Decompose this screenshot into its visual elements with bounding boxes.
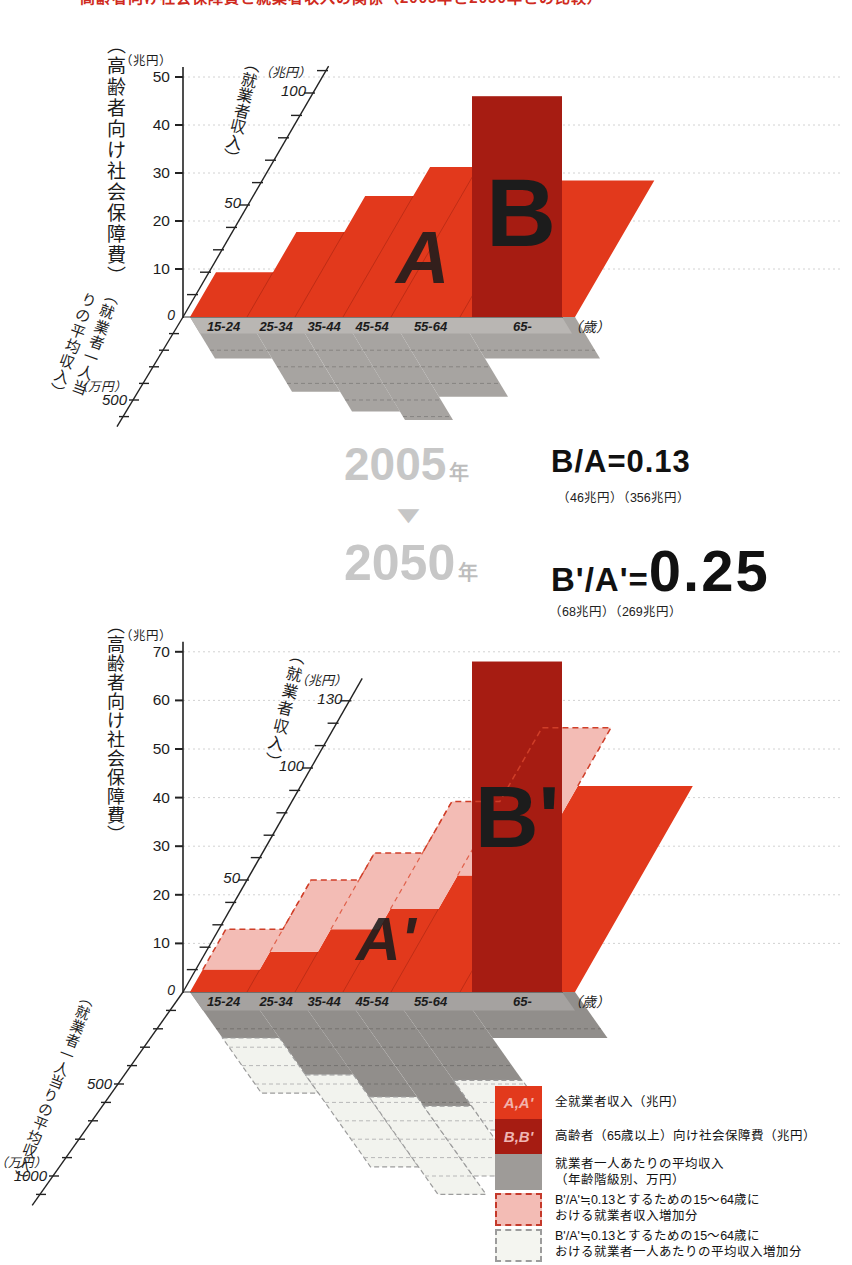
legend-swatch-pink-dashed xyxy=(495,1193,542,1226)
svg-text:130: 130 xyxy=(317,690,343,707)
left-axis: 10203040506070（兆円）0 xyxy=(120,629,183,998)
svg-text:保: 保 xyxy=(107,768,125,788)
svg-text:費: 費 xyxy=(107,245,126,266)
down-arrow-icon: ▼ xyxy=(390,503,427,527)
legend-item-social-security: B,B' 高齢者（65歳以上）向け社会保障費（兆円） xyxy=(495,1119,852,1154)
svg-text:25-34: 25-34 xyxy=(258,319,293,334)
ratio-2050-lhs: B'/A'= xyxy=(551,561,649,598)
svg-text:45-54: 45-54 xyxy=(354,994,389,1009)
legend-item-avg-income-increase: B'/A'≒0.13とするための15～64歳に おける就業者一人あたりの平均収入… xyxy=(495,1226,852,1262)
svg-text:向: 向 xyxy=(107,119,126,140)
year-2005-number: 2005 xyxy=(344,438,446,490)
svg-text:0: 0 xyxy=(167,982,175,998)
svg-text:25-34: 25-34 xyxy=(258,994,293,1009)
legend-label-line1: B'/A'≒0.13とするための15～64歳に xyxy=(555,1228,802,1244)
svg-text:40: 40 xyxy=(153,789,171,806)
svg-text:︵: ︵ xyxy=(107,620,125,636)
year-suffix: 年 xyxy=(458,562,478,584)
svg-text:（兆円）: （兆円） xyxy=(295,673,347,688)
income-axis-title: ︵就業者収入︶ xyxy=(262,646,308,771)
svg-text:会: 会 xyxy=(107,749,125,769)
ratio-2050-value: 0.25 xyxy=(649,538,770,603)
svg-text:（歳）: （歳） xyxy=(568,994,610,1010)
year-suffix: 年 xyxy=(449,462,469,484)
svg-text:50: 50 xyxy=(224,194,241,211)
svg-text:65-: 65- xyxy=(513,319,532,334)
surface-letter: A xyxy=(394,216,449,299)
svg-text:齢: 齢 xyxy=(107,77,126,98)
svg-text:高: 高 xyxy=(107,635,125,655)
legend-label-line1: B'/A'≒0.13とするための15～64歳に xyxy=(555,1192,760,1208)
svg-text:け: け xyxy=(107,140,126,161)
svg-text:者: 者 xyxy=(107,98,126,119)
legend-swatch-gray xyxy=(495,1154,542,1190)
ratio-2050-values: （68兆円）（269兆円） xyxy=(549,601,682,620)
ratio-2005: B/A=0.13 xyxy=(551,444,691,480)
svg-text:100: 100 xyxy=(281,82,307,99)
svg-text:30: 30 xyxy=(153,164,171,181)
legend-label-line2: おける就業者収入増加分 xyxy=(555,1208,760,1224)
svg-text:︶: ︶ xyxy=(46,380,66,401)
svg-text:齢: 齢 xyxy=(107,654,125,674)
chart-2005: 15-2425-3435-4445-5455-6465-（歳）AB1020304… xyxy=(0,0,852,470)
svg-text:者: 者 xyxy=(107,673,125,693)
svg-text:社: 社 xyxy=(107,730,125,750)
svg-text:10: 10 xyxy=(153,934,171,951)
svg-text:45-54: 45-54 xyxy=(354,319,389,334)
svg-text:0: 0 xyxy=(167,307,175,323)
svg-text:15-24: 15-24 xyxy=(207,319,241,334)
svg-text:70: 70 xyxy=(153,643,171,660)
surface-letter: B' xyxy=(475,767,559,866)
svg-text:（兆円）: （兆円） xyxy=(120,629,172,643)
legend: A,A' 全就業者収入（兆円） B,B' 高齢者（65歳以上）向け社会保障費（兆… xyxy=(495,1086,852,1262)
legend-swatch-red: A,A' xyxy=(495,1086,542,1119)
legend-item-worker-income: A,A' 全就業者収入（兆円） xyxy=(495,1086,852,1119)
avg-income-axis-title: ︵就業者一人当りの平均収入︶ xyxy=(9,989,98,1189)
legend-item-avg-income: 就業者一人あたりの平均収入 （年齢階級別、万円） xyxy=(495,1154,852,1190)
svg-text:35-44: 35-44 xyxy=(307,319,341,334)
svg-text:55-64: 55-64 xyxy=(414,319,448,334)
svg-text:30: 30 xyxy=(153,837,171,854)
legend-label-line2: （年齢階級別、万円） xyxy=(555,1172,724,1188)
left-axis-title: ︵高齢者向け社会保障費︶ xyxy=(107,620,125,845)
svg-text:障: 障 xyxy=(107,224,126,245)
year-2005-label: 2005年 xyxy=(344,441,469,487)
svg-text:100: 100 xyxy=(279,757,305,774)
svg-text:︶: ︶ xyxy=(107,825,125,845)
surface-letter: B xyxy=(486,158,556,267)
svg-text:40: 40 xyxy=(153,116,171,133)
svg-text:55-64: 55-64 xyxy=(414,994,448,1009)
ratio-2050: B'/A'=0.25 xyxy=(551,542,770,600)
svg-text:20: 20 xyxy=(153,886,171,903)
svg-text:社: 社 xyxy=(107,161,126,182)
svg-text:︶: ︶ xyxy=(220,148,240,168)
legend-item-income-increase: B'/A'≒0.13とするための15～64歳に おける就業者収入増加分 xyxy=(495,1190,852,1226)
ratio-2005-values: （46兆円）（356兆円） xyxy=(557,487,690,506)
svg-text:15-24: 15-24 xyxy=(207,994,241,1009)
year-2050-number: 2050 xyxy=(344,535,455,591)
svg-text:向: 向 xyxy=(107,692,125,712)
svg-text:65-: 65- xyxy=(513,994,532,1009)
svg-text:10: 10 xyxy=(153,260,171,277)
svg-text:（歳）: （歳） xyxy=(568,319,610,335)
figure-page: 高齢者向け社会保障費と就業者収入の関係（2005年と2050年との比較） 15-… xyxy=(0,0,852,1265)
svg-text:50: 50 xyxy=(223,869,240,886)
svg-text:け: け xyxy=(107,711,125,731)
age-axis-strip: 15-2425-3435-4445-5455-6465-（歳） xyxy=(190,992,610,1010)
left-axis-title: ︵高齢者向け社会保障費︶ xyxy=(107,35,126,287)
svg-text:35-44: 35-44 xyxy=(307,994,341,1009)
svg-text:当: 当 xyxy=(70,376,90,397)
legend-label: 全就業者収入（兆円） xyxy=(555,1094,685,1110)
svg-text:（兆円）: （兆円） xyxy=(259,65,311,80)
legend-label: 高齢者（65歳以上）向け社会保障費（兆円） xyxy=(555,1128,816,1144)
legend-label-line1: 就業者一人あたりの平均収入 xyxy=(555,1156,724,1172)
legend-swatch-darkred: B,B' xyxy=(495,1119,542,1154)
svg-text:障: 障 xyxy=(107,787,125,807)
svg-text:50: 50 xyxy=(153,68,171,85)
svg-text:60: 60 xyxy=(153,691,171,708)
svg-text:︵: ︵ xyxy=(107,35,126,56)
svg-text:500: 500 xyxy=(87,1075,113,1092)
surface-letter: A' xyxy=(354,904,418,973)
income-axis-title: ︵就業者収入︶ xyxy=(220,54,263,168)
svg-text:20: 20 xyxy=(153,212,171,229)
